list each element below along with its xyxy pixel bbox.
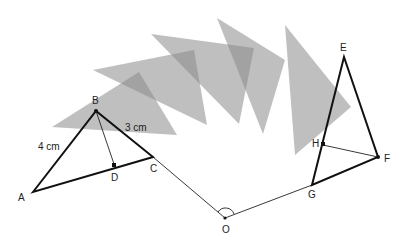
angle-arc-o — [218, 208, 234, 214]
ray-oc — [153, 157, 225, 218]
point-f-dot — [376, 155, 380, 159]
label-c: C — [150, 163, 157, 174]
point-o-dot — [223, 216, 226, 219]
measurement-ab: 4 cm — [38, 141, 60, 152]
label-h: H — [312, 138, 319, 149]
right-angle-marker-h — [321, 142, 325, 146]
label-d: D — [111, 172, 118, 183]
label-e: E — [340, 42, 347, 53]
rotation-diagram: A B C D O E F G H 4 cm 3 cm — [0, 0, 402, 242]
label-o: O — [222, 224, 230, 235]
point-b-dot — [94, 109, 98, 113]
measurement-bc: 3 cm — [125, 122, 147, 133]
label-f: F — [384, 153, 390, 164]
ray-og — [225, 185, 312, 218]
label-g: G — [308, 189, 316, 200]
label-b: B — [92, 95, 99, 106]
altitude-fh — [323, 145, 378, 157]
right-angle-marker-d — [112, 163, 116, 167]
label-a: A — [18, 192, 25, 203]
rotated-images — [52, 18, 351, 155]
